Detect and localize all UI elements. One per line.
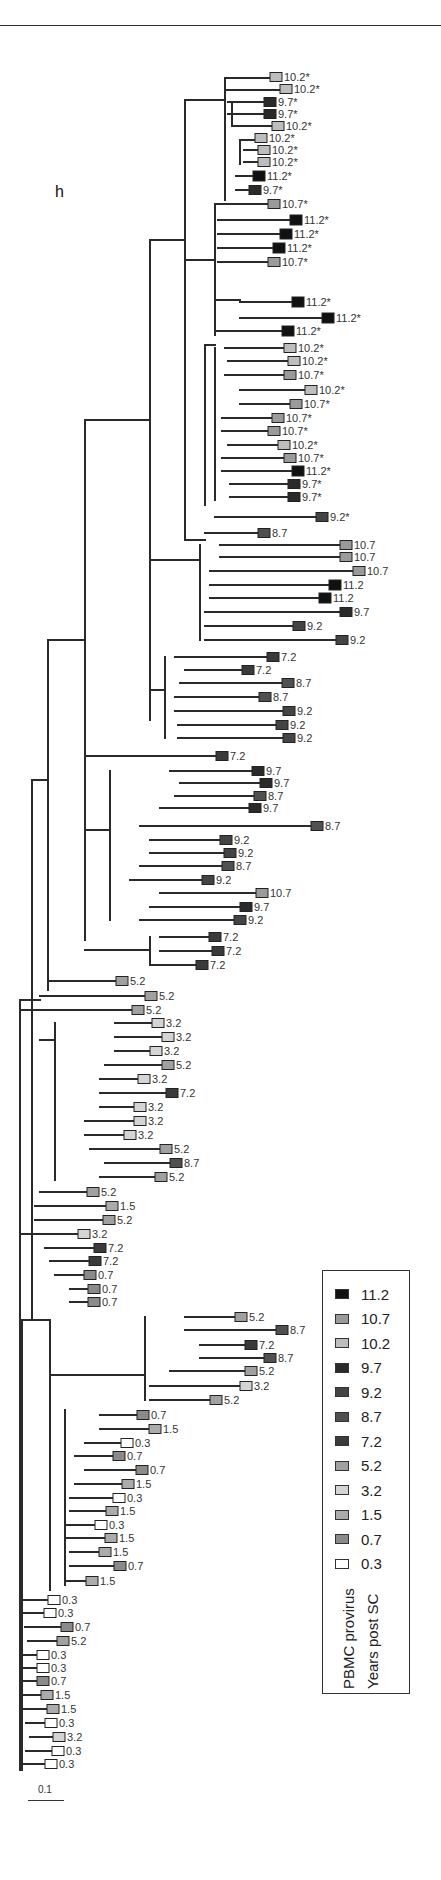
tree-tip: 5.2 [87,1186,116,1198]
tip-marker-icon [57,1637,69,1646]
tip-label: 9.2 [297,705,312,717]
tree-tip: 10.7 [340,551,375,563]
tip-marker-icon [95,1521,107,1530]
tip-marker-icon [264,98,276,107]
tree-tip: 0.3 [37,1649,66,1661]
tree-tip: 11.2* [292,296,332,308]
tree-tip: 5.2 [132,1004,161,1016]
tip-label: 11.2* [294,228,320,240]
legend-label: 10.2 [361,1335,390,1352]
tree-tip: 0.7 [88,1283,117,1295]
tip-marker-icon [284,344,296,353]
tree-tip: 7.2 [267,651,296,663]
tip-marker-icon [245,1341,257,1350]
tip-marker-icon [292,297,304,307]
tree-tip: 0.3 [95,1519,124,1531]
tip-marker-icon [137,1411,149,1420]
tip-label: 3.2 [254,1380,269,1392]
tip-marker-icon [37,1664,49,1673]
legend-item: 11.2 [335,1283,389,1305]
tree-tip: 9.7* [288,478,322,490]
tip-marker-icon [268,427,280,436]
tip-marker-icon [88,1285,100,1294]
legend-swatch-icon [335,1485,349,1495]
tip-marker-icon [305,386,317,395]
legend-title-line2: Years post SC [361,1569,385,1689]
tip-marker-icon [121,1439,133,1448]
tip-label: 8.7 [278,1352,293,1364]
tip-label: 0.3 [135,1437,150,1449]
legend-title-line1: PBMC provirus [337,1569,361,1689]
tree-tip: 9.7 [252,765,281,777]
tree-tip: 11.2* [282,325,322,337]
tree-tip: 5.2 [103,1214,132,1226]
tip-marker-icon [44,1609,56,1618]
tip-label: 10.2* [298,342,324,354]
tip-label: 3.2 [152,1073,167,1085]
tip-label: 9.7* [278,96,298,108]
tree-tip: 10.2* [278,439,318,451]
tip-label: 5.2 [159,990,174,1002]
tip-marker-icon [52,1747,64,1756]
tip-label: 1.5 [61,1703,76,1715]
tip-marker-icon [202,876,214,885]
tip-label: 0.3 [109,1519,124,1531]
tip-marker-icon [87,1188,99,1197]
tree-tip: 8.7 [282,677,311,689]
tip-marker-icon [273,243,285,253]
tip-label: 7.2 [210,959,225,971]
tree-tip: 7.2 [209,931,238,943]
tree-tip: 9.7 [240,901,269,913]
tip-marker-icon [255,134,267,143]
tip-label: 11.2* [287,242,313,254]
tip-marker-icon [272,414,284,423]
tip-marker-icon [258,146,270,155]
legend-title: PBMC provirus Years post SC [337,1569,397,1689]
tip-label: 3.2 [176,1031,191,1043]
tree-tip: 1.5 [106,1200,135,1212]
scale-bar-line [28,1800,64,1801]
tip-marker-icon [235,1313,247,1322]
legend-item: 0.7 [335,1528,382,1550]
tree-tip: 0.7 [61,1621,90,1633]
tip-label: 3.2 [164,1045,179,1057]
tree-tip: 8.7 [259,691,288,703]
tree-tip: 10.2* [258,156,298,168]
tip-marker-icon [103,1216,115,1225]
tree-tip: 9.2* [316,511,350,523]
tip-label: 1.5 [136,1478,151,1490]
tip-label: 10.7 [270,887,291,899]
tree-tip: 3.2 [152,1017,181,1029]
tree-tip: 5.2 [57,1635,86,1647]
scale-bar: 0.1 [28,1787,64,1801]
tree-tip: 3.2 [138,1073,167,1085]
tree-tip: 10.2* [255,132,295,144]
tip-label: 9.2 [248,914,263,926]
legend: 11.210.710.29.79.28.77.25.23.21.50.70.3 … [322,1270,410,1694]
tip-label: 7.2 [226,945,241,957]
tip-marker-icon [253,171,265,181]
tip-label: 0.3 [58,1607,73,1619]
tip-marker-icon [283,707,295,716]
tree-tip: 0.3 [113,1492,142,1504]
tip-marker-icon [322,313,334,323]
legend-label: 11.2 [361,1286,389,1303]
tree-tip: 7.2 [166,1087,195,1099]
tree-tip: 9.2 [283,705,312,717]
tip-marker-icon [242,666,254,675]
tip-marker-icon [116,977,128,986]
tip-label: 3.2 [148,1101,163,1113]
tree-tip: 11.2* [290,214,330,226]
tree-tip: 9.7 [249,802,278,814]
tree-tip: 0.7 [114,1560,143,1572]
tip-label: 7.2 [108,1242,123,1254]
tip-label: 8.7 [273,691,288,703]
tip-label: 7.2 [223,931,238,943]
tree-tip: 1.5 [99,1546,128,1558]
tip-label: 1.5 [119,1532,134,1544]
tree-tip: 3.2 [150,1045,179,1057]
tip-marker-icon [222,862,234,871]
tree-tip: 3.2 [78,1228,107,1240]
tip-marker-icon [316,513,328,522]
tip-marker-icon [152,1019,164,1028]
